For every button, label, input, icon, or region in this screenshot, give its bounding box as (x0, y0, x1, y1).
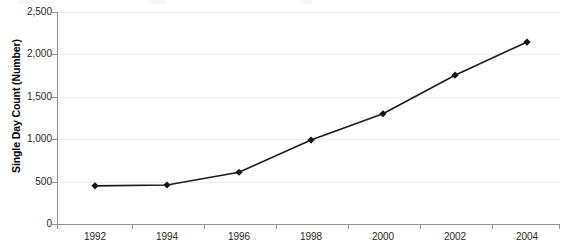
x-tick-mark (57, 224, 58, 229)
x-tick-label: 1998 (281, 231, 341, 242)
x-tick-mark (559, 224, 560, 229)
y-axis-line (57, 12, 58, 224)
y-tick-label: 2,500 (6, 7, 52, 17)
y-axis-tick-labels: 2,500 2,000 1,500 1,000 500 0 (0, 0, 52, 251)
x-tick-mark (348, 224, 349, 229)
y-tick-label: 500 (6, 177, 52, 187)
x-tick-mark (420, 224, 421, 229)
top-crop-artifact (150, 0, 166, 4)
x-tick-mark (132, 224, 133, 229)
x-tick-label: 2000 (353, 231, 413, 242)
x-tick-label: 1996 (209, 231, 269, 242)
gridline (57, 12, 560, 13)
y-tick-label: 1,500 (6, 92, 52, 102)
gridline (57, 182, 560, 183)
x-tick-label: 2002 (425, 231, 485, 242)
x-tick-mark (492, 224, 493, 229)
y-tick-label: 2,000 (6, 49, 52, 59)
x-tick-label: 1994 (137, 231, 197, 242)
x-tick-mark (276, 224, 277, 229)
plot-area (57, 12, 560, 224)
gridline (57, 139, 560, 140)
y-tick-label: 1,000 (6, 134, 52, 144)
x-tick-mark (204, 224, 205, 229)
gridline (57, 54, 560, 55)
top-crop-artifact (300, 0, 312, 4)
y-tick-label: 0 (6, 219, 52, 229)
line-chart: Single Day Count (Number) 2,500 2,000 1,… (0, 0, 567, 251)
x-tick-label: 1992 (65, 231, 125, 242)
gridline (57, 97, 560, 98)
x-tick-label: 2004 (497, 231, 557, 242)
